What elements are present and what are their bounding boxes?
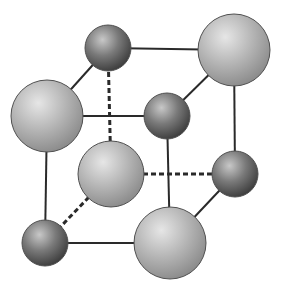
small-atom-back-top-left [85, 25, 131, 71]
crystal-lattice-diagram [0, 0, 286, 291]
large-atom-back-top-right [198, 14, 270, 86]
large-atom-back-bottom-left [78, 141, 144, 207]
large-atom-front-top-left [11, 80, 83, 152]
small-atom-front-bottom-left [22, 220, 68, 266]
small-atom-front-top-right [144, 93, 190, 139]
lattice-atoms [11, 14, 270, 279]
small-atom-back-bottom-right [212, 151, 258, 197]
lattice-edges [45, 48, 235, 243]
large-atom-front-bottom-right [134, 207, 206, 279]
